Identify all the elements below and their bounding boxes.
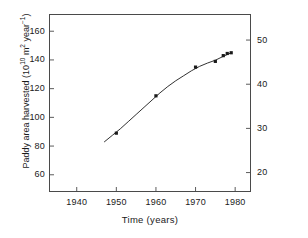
plot-area [49, 14, 251, 192]
y-axis-title-prefix: Paddy area harvested (10 [21, 65, 31, 169]
y-axis-title-mid: m [21, 48, 31, 58]
data-point [154, 94, 157, 97]
y-axis-exp-10: 10 [19, 58, 26, 65]
x-tick-label: 1960 [139, 197, 173, 207]
y-axis-title-year: year [21, 24, 31, 44]
chart-figure: 19401950196019701980 6080100120140160 20… [0, 0, 308, 238]
y-axis-exp-minus1: −1 [19, 17, 26, 24]
y-tick-label-right: 30 [257, 123, 283, 133]
data-point [194, 66, 197, 69]
data-point [115, 132, 118, 135]
trend-line [104, 53, 231, 142]
x-axis-tick-marks [77, 187, 235, 192]
x-tick-label: 1980 [218, 197, 252, 207]
y-tick-label-right: 40 [257, 79, 283, 89]
y-axis-right-tick-marks [246, 40, 251, 173]
x-tick-label: 1940 [60, 197, 94, 207]
data-point [222, 54, 225, 57]
y-tick-label-right: 20 [257, 167, 283, 177]
y-axis-title-close: ) [21, 14, 31, 17]
data-point-markers [115, 51, 233, 135]
y-axis-title: Paddy area harvested (1010 m2 year−1) [21, 3, 31, 179]
y-axis-left-tick-marks [49, 31, 54, 175]
data-point [226, 52, 229, 55]
data-point [230, 51, 233, 54]
x-tick-label: 1950 [99, 197, 133, 207]
x-tick-label: 1970 [179, 197, 213, 207]
data-point [214, 60, 217, 63]
x-axis-title: Time (years) [49, 214, 251, 225]
y-axis-exp-2: 2 [19, 44, 26, 48]
y-tick-label-right: 50 [257, 35, 283, 45]
